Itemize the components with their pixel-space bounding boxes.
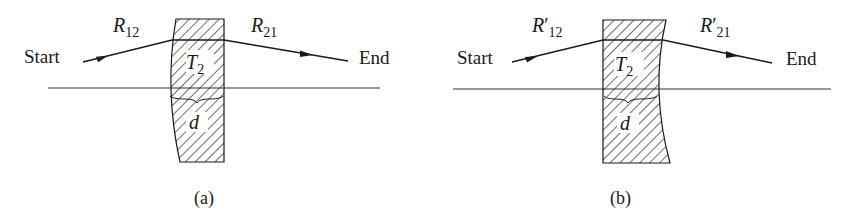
optics-diagram: Start End R12 R21 T2 d (a) Start End R′1…	[0, 0, 848, 223]
start-label: Start	[24, 46, 61, 67]
start-label: Start	[457, 47, 494, 68]
panel-a: Start End R12 R21 T2 d (a)	[24, 14, 390, 209]
thickness-label: d	[620, 112, 631, 134]
arrow-in-icon	[96, 56, 108, 62]
lens-element	[603, 20, 670, 163]
end-label: End	[359, 47, 390, 68]
arrow-out-icon	[300, 51, 313, 58]
ray-out-label: R21	[250, 14, 277, 40]
caption-a: (a)	[194, 188, 214, 209]
ray-in-label: R12	[112, 14, 139, 40]
caption-b: (b)	[610, 188, 631, 209]
ray-out-label: R′21	[699, 14, 731, 40]
arrow-out-icon	[726, 51, 739, 58]
panel-b: Start End R′12 R′21 T2 d (b)	[453, 14, 831, 209]
thickness-label: d	[189, 111, 200, 133]
ray-in-label: R′12	[531, 14, 563, 40]
end-label: End	[786, 48, 817, 69]
arrow-in-icon	[525, 56, 538, 63]
